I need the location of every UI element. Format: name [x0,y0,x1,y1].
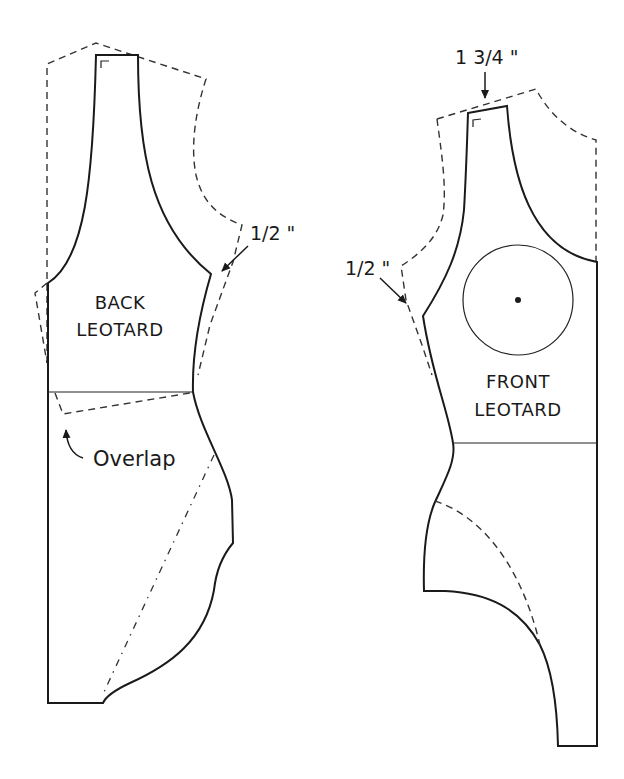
back-label-line1: BACK [95,292,146,313]
pattern-diagram: BACK LEOTARD 1/2 " Overlap [0,0,624,779]
front-label-line1: FRONT [486,371,550,392]
front-corner-mark [473,119,481,127]
back-armhole-arrow-icon [222,246,248,271]
overlap-arrow-icon [66,430,83,458]
back-original-side-left [35,283,47,363]
front-shoulder-measure: 1 3/4 " [455,46,519,68]
front-armhole-arrow-icon [380,278,406,303]
bust-point [515,297,521,303]
back-overlap-line [55,393,190,414]
back-armhole-measure: 1/2 " [250,222,295,244]
back-reference-line [104,455,214,692]
back-leotard-piece: BACK LEOTARD 1/2 " Overlap [35,43,295,703]
front-leotard-piece: FRONT LEOTARD 1 3/4 " 1/2 " [345,46,597,746]
front-armhole-measure: 1/2 " [345,257,390,279]
back-new-outline [48,55,233,703]
front-original-left [401,119,444,375]
front-original-outline [437,89,596,262]
front-new-outline [423,106,597,746]
overlap-note: Overlap [93,447,176,471]
back-corner-mark [101,61,109,68]
back-label-line2: LEOTARD [76,319,163,340]
front-label-line2: LEOTARD [474,399,561,420]
